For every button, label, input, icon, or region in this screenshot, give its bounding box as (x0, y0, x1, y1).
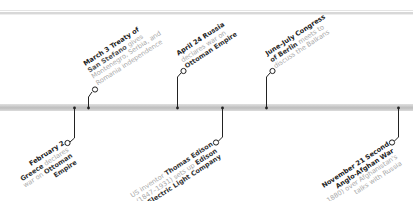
connector-edison (213, 107, 224, 145)
connector-feb-2 (65, 107, 76, 146)
connector-mar-3 (87, 87, 98, 110)
connector-nov-21 (389, 107, 400, 145)
connector-apr-24 (176, 68, 186, 109)
connector-june-july (265, 68, 275, 109)
